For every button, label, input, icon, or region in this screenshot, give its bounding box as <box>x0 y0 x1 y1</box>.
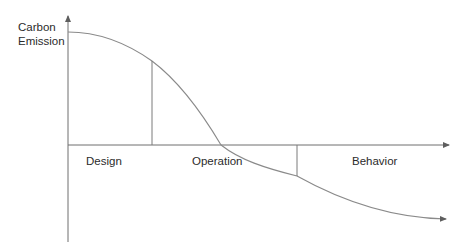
phase-label-operation: Operation <box>192 154 243 168</box>
y-axis-label: Carbon Emission <box>18 20 65 48</box>
phase-label-behavior: Behavior <box>352 154 397 168</box>
carbon-emission-diagram: Carbon Emission Design Operation Behavio… <box>0 0 462 242</box>
y-axis-label-line1: Carbon <box>18 20 65 34</box>
emission-curve <box>68 32 446 219</box>
phase-label-design: Design <box>86 154 122 168</box>
diagram-graphic <box>0 0 462 242</box>
y-axis-label-line2: Emission <box>18 34 65 48</box>
